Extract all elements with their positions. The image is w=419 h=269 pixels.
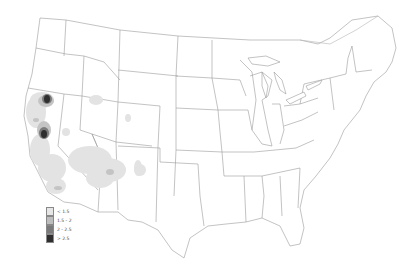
legend-label: > 2.5 — [57, 236, 69, 241]
legend-item: < 1.5 — [46, 207, 72, 215]
legend-swatch — [46, 216, 54, 225]
us-outline — [24, 16, 396, 258]
legend-label: 1.5 - 2 — [57, 218, 72, 223]
legend-swatch — [46, 234, 54, 243]
legend-item: > 2.5 — [46, 234, 72, 242]
legend-swatch — [46, 207, 54, 216]
legend-label: 2 - 2.5 — [57, 227, 72, 232]
legend-swatch — [46, 225, 54, 234]
legend: < 1.5 1.5 - 2 2 - 2.5 > 2.5 — [46, 207, 72, 243]
legend-item: 1.5 - 2 — [46, 216, 72, 224]
legend-item: 2 - 2.5 — [46, 225, 72, 233]
legend-label: < 1.5 — [57, 209, 69, 214]
